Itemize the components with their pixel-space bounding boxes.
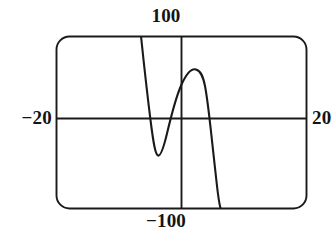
graph-figure: 100 −20 20 −100 (0, 0, 332, 232)
plot-canvas (0, 0, 332, 232)
